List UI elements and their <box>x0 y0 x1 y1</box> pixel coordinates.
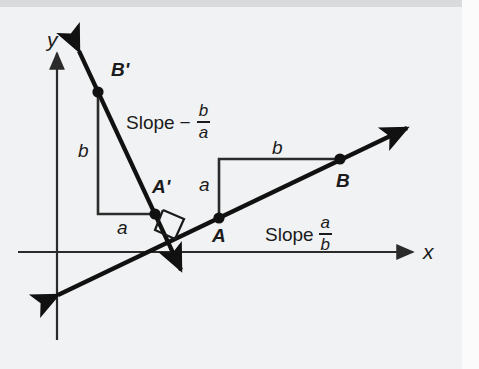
line-slope-a-over-b <box>58 128 407 295</box>
slope-fraction-1: b a <box>197 102 210 142</box>
x-axis-label: x <box>423 241 434 262</box>
leg-label-left-vertical-b: b <box>78 141 89 160</box>
slope-diagram-svg <box>0 7 462 369</box>
page-right-margin <box>462 0 479 369</box>
leg-label-right-horizontal-b: b <box>272 138 283 157</box>
point-dot-b-prime <box>92 86 103 97</box>
point-label-b-prime: B' <box>111 60 129 79</box>
point-dot-a <box>213 212 224 223</box>
slope-fraction-1-numerator: b <box>197 102 210 121</box>
point-label-a: A <box>212 226 226 245</box>
point-dot-a-prime <box>149 208 160 219</box>
slope-fraction-2-denominator: b <box>319 235 332 254</box>
point-label-b: B <box>336 171 350 190</box>
slope-fraction-1-denominator: a <box>197 123 210 142</box>
leg-label-left-horizontal-a: a <box>117 218 128 237</box>
slope-minus-sign: − <box>180 113 192 132</box>
diagram-canvas: y x B' A' A B b a a b Slope − b a Slope … <box>0 7 462 369</box>
slope-word-2: Slope <box>265 225 314 244</box>
slope-word-1: Slope <box>126 113 175 132</box>
page-top-strip <box>0 0 479 7</box>
y-axis-label: y <box>47 29 58 50</box>
point-dot-b <box>334 153 345 164</box>
slope-label-negative-b-over-a: Slope − b a <box>126 103 210 143</box>
line-slope-negative-b-over-a <box>79 51 181 270</box>
point-label-a-prime: A' <box>152 177 170 196</box>
slope-fraction-2-numerator: a <box>319 214 332 233</box>
slope-label-a-over-b: Slope a b <box>265 215 332 255</box>
slope-fraction-2: a b <box>319 214 332 254</box>
leg-label-right-vertical-a: a <box>199 175 210 194</box>
figure-root: y x B' A' A B b a a b Slope − b a Slope … <box>0 0 479 369</box>
